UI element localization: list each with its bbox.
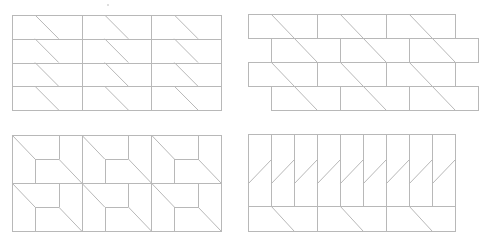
tiling-figure [0,0,488,240]
stray-mark [107,4,109,6]
panel-bottom-left [12,135,222,232]
panel-top-left [12,4,222,111]
panel-bottom-right [248,134,456,232]
panel-top-right [249,14,479,111]
